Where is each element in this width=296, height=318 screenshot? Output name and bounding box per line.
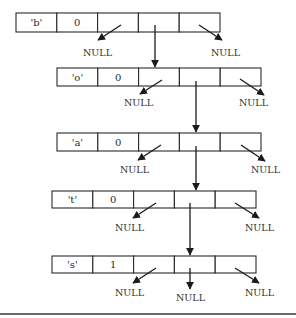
node-char: 'o' bbox=[72, 72, 84, 83]
null-label: NULL bbox=[176, 292, 206, 303]
node-char: 's' bbox=[67, 259, 78, 270]
null-label: NULL bbox=[245, 287, 275, 298]
node-count: 0 bbox=[110, 194, 116, 205]
node-count: 0 bbox=[74, 17, 80, 28]
trie-diagram: 'b' 0 'o' 0 'a' 0 't' 0 bbox=[0, 0, 296, 318]
trie-node-t: 't' 0 bbox=[52, 191, 256, 208]
node-char: 'a' bbox=[72, 137, 83, 148]
node-count: 0 bbox=[115, 72, 121, 83]
null-label: NULL bbox=[124, 97, 154, 108]
null-label: NULL bbox=[115, 287, 145, 298]
null-label: NULL bbox=[120, 164, 150, 175]
trie-node-b: 'b' 0 bbox=[16, 13, 220, 32]
node-count: 0 bbox=[115, 137, 121, 148]
null-label: NULL bbox=[211, 47, 241, 58]
node-char: 'b' bbox=[30, 17, 42, 28]
trie-node-s: 's' 1 bbox=[52, 256, 256, 273]
null-label: NULL bbox=[239, 97, 269, 108]
null-label: NULL bbox=[251, 164, 281, 175]
trie-node-o: 'o' 0 bbox=[57, 68, 261, 86]
node-char: 't' bbox=[68, 194, 78, 205]
node-count: 1 bbox=[110, 259, 116, 270]
null-label: NULL bbox=[115, 222, 145, 233]
null-label: NULL bbox=[245, 222, 275, 233]
null-label: NULL bbox=[83, 47, 113, 58]
trie-node-a: 'a' 0 bbox=[57, 133, 261, 151]
